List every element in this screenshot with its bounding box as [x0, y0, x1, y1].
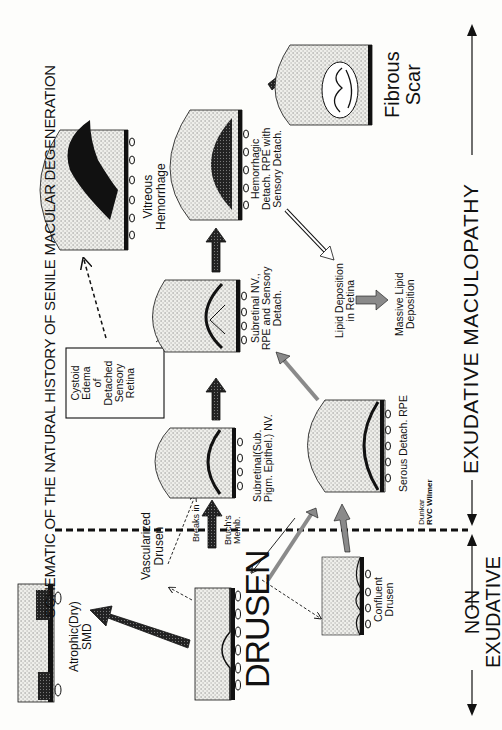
label-atrophic-line2: SMD: [81, 601, 94, 672]
label-atrophic: Atrophic(Dry) SMD: [68, 601, 93, 672]
label-vitreous-line2: Hemorrhage: [155, 163, 168, 230]
hemorrhagic-detach-illustration: [170, 110, 249, 220]
label-lipid-line2: in Retina: [345, 263, 356, 338]
fibrous-scar-illustration: [275, 45, 372, 125]
label-vascularized-line2: Drusen: [153, 512, 166, 580]
label-cystoid-edema: Cystoid Edema of Detached Sensory Retina: [70, 352, 136, 414]
label-vascularized-line1: Vascularized: [140, 512, 153, 580]
serous-detach-illustration: [308, 400, 391, 492]
label-vascularized-drusen: Vascularized Drusen: [140, 512, 165, 580]
label-vitreous-hemorrhage: Vitreous Hemorrhage: [142, 163, 167, 230]
diagram-title: SCHEMATIC OF THE NATURAL HISTORY OF SENI…: [42, 65, 58, 618]
label-memb-word: Memb.: [233, 515, 242, 545]
author-credit: Dunkar RVC Wilmer: [418, 479, 435, 525]
confluent-drusen-illustration: [322, 557, 371, 635]
drusen-retina-illustration: [195, 588, 241, 700]
label-massive-line2: Deposition: [405, 272, 416, 336]
label-fibrous-line1: Fibrous: [382, 51, 403, 118]
label-subretinal-nv-rpe: Subretinal NV., RPE and Sensory Detach.: [250, 267, 283, 350]
label-vitreous-line1: Vitreous: [142, 163, 155, 230]
label-lipid-deposition: Lipid Deposition in Retina: [334, 263, 356, 338]
label-cystoid-line6: Retina: [125, 352, 136, 414]
label-breaks-in: Breaks in: [192, 504, 201, 542]
arrow-drusen-to-atrophic: [90, 606, 190, 648]
label-fibrous-scar: Fibrous Scar: [382, 51, 424, 118]
label-serous-detach: Serous Detach. RPE: [398, 395, 409, 492]
label-hem-line3: Sensory Detach.: [272, 128, 283, 210]
label-snv-rpe-line3: Detach.: [272, 267, 283, 350]
label-breaks-word: Breaks: [191, 514, 201, 542]
label-atrophic-line1: Atrophic(Dry): [68, 601, 81, 672]
label-subretinal-line2: Pigm. Epithel.) NV.: [263, 414, 274, 502]
label-hemorrhagic-detach: Hemorrhagic Detach. RPE with Sensory Det…: [250, 128, 283, 210]
subretinal-nv-rpe-illustration: [153, 280, 247, 352]
label-non-exudative: NON EXUDATIVE: [462, 556, 502, 668]
credit-line2: RVC Wilmer: [426, 479, 434, 525]
label-subretinal-nv: Subretinal(Sub. Pigm. Epithel.) NV.: [252, 414, 274, 502]
subretinal-nv-illustration: [155, 428, 243, 498]
label-drusen: DRUSEN: [240, 550, 276, 688]
diagram-canvas: SCHEMATIC OF THE NATURAL HISTORY OF SENI…: [0, 0, 502, 730]
label-confluent-line2: Drusen: [384, 577, 395, 622]
label-fibrous-line2: Scar: [403, 51, 424, 118]
label-exudative-maculopathy: EXUDATIVE MACULOPATHY: [460, 183, 482, 474]
label-non-word: NON: [462, 556, 483, 668]
label-confluent-drusen: Confluent Drusen: [373, 577, 395, 622]
label-in-word: in: [191, 504, 201, 511]
label-bruchs-memb: Bruch's Memb.: [224, 515, 243, 545]
label-exudative-word: EXUDATIVE: [483, 556, 502, 668]
label-massive-lipid: Massive Lipid Deposition: [394, 272, 416, 336]
arrow-breaks-bruchs: [202, 500, 222, 548]
